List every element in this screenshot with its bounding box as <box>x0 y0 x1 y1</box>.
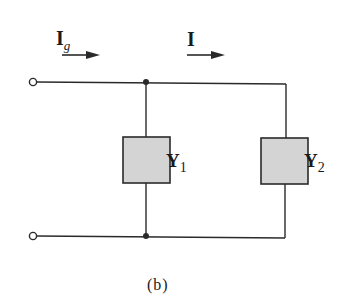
admittance-2-label: Y2 <box>304 150 325 172</box>
circuit-diagram <box>0 0 337 296</box>
admittance-box-y1 <box>123 137 170 183</box>
top-wire <box>37 82 286 84</box>
bottom-wire <box>37 236 285 238</box>
source-current-symbol: I <box>56 27 64 49</box>
admittance-2-subscript: 2 <box>318 160 325 175</box>
branch-current-symbol: I <box>187 28 195 50</box>
branch-current-arrow <box>187 51 225 59</box>
admittance-1-label: Y1 <box>166 150 187 172</box>
branch-current-label: I <box>187 28 195 51</box>
admittance-1-subscript: 1 <box>180 160 187 175</box>
source-current-label: Ig <box>56 27 70 50</box>
bottom-junction-dot <box>143 233 149 239</box>
admittance-box-y2 <box>261 138 308 184</box>
top-junction-dot <box>143 79 149 85</box>
top-terminal <box>29 78 36 85</box>
admittance-1-symbol: Y <box>166 150 180 171</box>
figure-caption: (b) <box>147 276 169 294</box>
bottom-terminal <box>29 232 36 239</box>
admittance-2-symbol: Y <box>304 150 318 171</box>
source-current-subscript: g <box>64 38 71 53</box>
